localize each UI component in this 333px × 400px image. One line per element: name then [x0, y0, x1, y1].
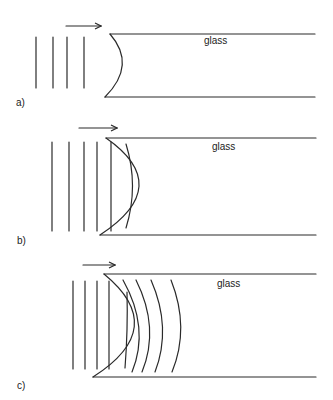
panel-a	[36, 26, 315, 97]
glass-label: glass	[212, 142, 235, 152]
glass-curved-interface	[100, 138, 139, 235]
curved-wavefront	[151, 280, 163, 372]
glass-label: glass	[204, 36, 227, 46]
glass-curved-interface	[105, 34, 122, 97]
panel-label-c: c)	[17, 381, 25, 391]
panel-b	[52, 128, 316, 235]
wavefront-refraction-diagram	[0, 0, 333, 400]
glass-label: glass	[217, 279, 240, 289]
curved-wavefront	[125, 292, 127, 368]
panel-label-a: a)	[16, 98, 25, 108]
curved-wavefront	[171, 280, 181, 372]
panel-label-b: b)	[17, 236, 26, 246]
panel-c	[73, 265, 316, 377]
